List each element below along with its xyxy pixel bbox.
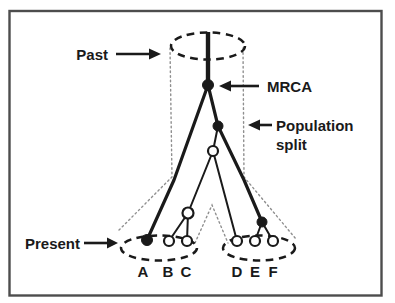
leaf-node-b: [164, 236, 174, 246]
leaf-node-e: [250, 236, 260, 246]
leaf-node-a: [142, 235, 153, 246]
ef-ancestor-node: [257, 217, 267, 227]
population-split-node: [213, 121, 223, 131]
leaf-label-c: C: [181, 263, 192, 280]
leaf-node-c: [182, 236, 192, 246]
present-label: Present: [25, 235, 80, 252]
coalescent-tree-figure: Past MRCA Population split Present A B C…: [0, 0, 395, 303]
mrca-label: MRCA: [267, 78, 312, 95]
figure-canvas: Past MRCA Population split Present A B C…: [0, 0, 395, 303]
past-label: Past: [76, 46, 108, 63]
leaf-label-d: D: [232, 263, 243, 280]
bc-ancestor-node: [183, 208, 194, 219]
coalescent-open-node: [208, 146, 218, 156]
population-split-label-line1: Population: [276, 117, 354, 134]
mrca-node: [203, 80, 214, 91]
leaf-label-b: B: [163, 263, 174, 280]
leaf-node-d: [232, 236, 242, 246]
leaf-label-a: A: [138, 263, 149, 280]
leaf-label-f: F: [268, 263, 277, 280]
leaf-label-e: E: [250, 263, 260, 280]
population-split-label-line2: split: [276, 136, 307, 153]
leaf-node-f: [268, 236, 278, 246]
